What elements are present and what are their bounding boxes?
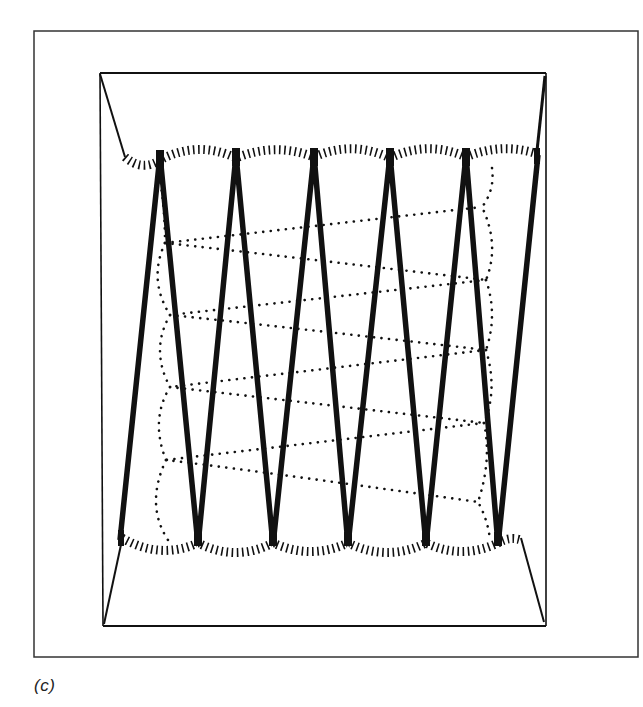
top-fringe xyxy=(125,149,538,166)
corner-ties xyxy=(100,74,545,624)
bottom-fringe xyxy=(122,538,521,553)
zigzag-cord xyxy=(120,155,538,545)
outer-frame xyxy=(34,31,638,657)
figure-caption: (c) xyxy=(34,676,55,696)
lacing-diagram xyxy=(0,0,643,707)
